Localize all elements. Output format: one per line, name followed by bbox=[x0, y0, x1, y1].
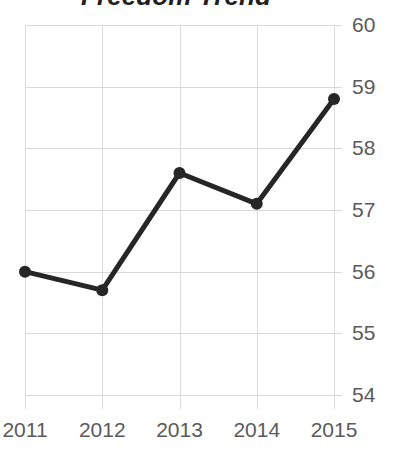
plot-area bbox=[25, 25, 334, 395]
x-axis-tick-label: 2015 bbox=[289, 419, 379, 440]
data-point-marker bbox=[96, 284, 108, 296]
horizontal-gridlines bbox=[25, 26, 342, 396]
y-axis-tick-label: 59 bbox=[352, 76, 398, 97]
data-point-marker bbox=[251, 198, 263, 210]
data-point-marker bbox=[174, 167, 186, 179]
y-axis-tick-label: 58 bbox=[352, 137, 398, 158]
y-axis-tick-label: 60 bbox=[352, 14, 398, 35]
data-point-marker bbox=[328, 93, 340, 105]
plot-svg bbox=[0, 0, 402, 454]
y-axis-tick-label: 55 bbox=[352, 322, 398, 343]
y-axis-tick-label: 57 bbox=[352, 199, 398, 220]
data-point-marker bbox=[19, 266, 31, 278]
y-axis-tick-label: 56 bbox=[352, 261, 398, 282]
vertical-gridlines bbox=[26, 25, 335, 409]
y-axis-tick-label: 54 bbox=[352, 384, 398, 405]
line-chart: Freedom Trend 60595857565554 20112012201… bbox=[0, 0, 402, 454]
